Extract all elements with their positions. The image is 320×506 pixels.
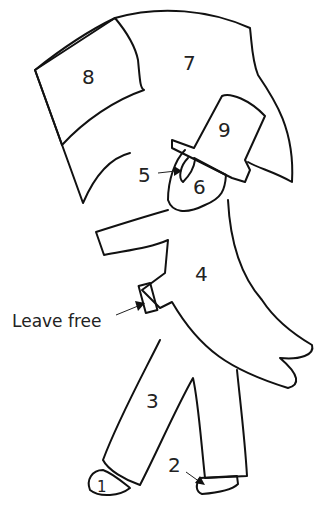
label-1: 1	[97, 478, 107, 496]
arrow-leave-free	[116, 306, 138, 315]
label-2: 2	[168, 453, 181, 477]
label-6: 6	[193, 175, 206, 199]
coat-tab	[139, 283, 158, 313]
leave-free-label: Leave free	[12, 311, 102, 331]
coat-piece-4	[96, 200, 312, 388]
label-3: 3	[146, 389, 159, 413]
label-8: 8	[82, 65, 95, 89]
shoe-piece-2	[197, 476, 238, 494]
pattern-diagram: 8 7 9 5 6 4 3 2 1 Leave free	[0, 0, 320, 506]
shoe-piece-1	[89, 470, 130, 495]
label-7: 7	[183, 51, 196, 75]
label-9: 9	[218, 118, 231, 142]
label-5: 5	[138, 163, 151, 187]
label-4: 4	[195, 262, 208, 286]
